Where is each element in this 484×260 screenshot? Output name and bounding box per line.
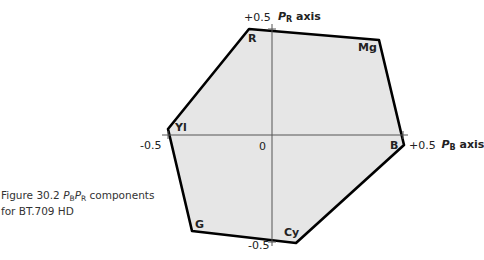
pr-axis-word: axis <box>296 10 321 23</box>
vertex-label-green: G <box>195 219 204 230</box>
pb-negative-tick-label: -0.5 <box>140 140 161 151</box>
vertex-label-yellow: Yl <box>175 122 187 133</box>
pb-axis-symbol: P <box>442 138 450 151</box>
vertex-label-red: R <box>248 33 256 44</box>
caption-text: components <box>86 189 154 201</box>
pr-negative-tick-label: -0.5 <box>248 240 269 251</box>
pb-axis-label: +0.5 PB axis <box>409 139 484 152</box>
pr-axis-label: PR axis <box>278 11 321 24</box>
vertex-label-magenta: Mg <box>358 42 377 53</box>
pr-positive-tick-label: +0.5 <box>244 12 271 23</box>
pb-axis-word: axis <box>460 138 484 151</box>
pr-axis-symbol: P <box>278 10 286 23</box>
vertex-label-blue: B <box>390 140 398 151</box>
caption-figure-number: Figure 30.2 <box>1 189 60 201</box>
pb-axis-subscript: B <box>450 143 456 152</box>
vertex-label-cyan: Cy <box>284 227 299 238</box>
caption-line-2: for BT.709 HD <box>1 205 74 217</box>
origin-label: 0 <box>259 141 266 152</box>
figure-caption: Figure 30.2 PBPR components for BT.709 H… <box>1 189 154 217</box>
colour-gamut-hexagon <box>168 29 404 243</box>
pr-axis-subscript: R <box>286 15 292 24</box>
